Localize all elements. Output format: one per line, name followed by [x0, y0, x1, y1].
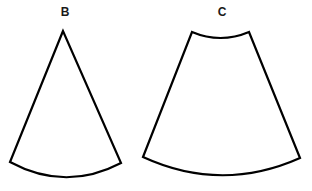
- shape-b-label: B: [58, 6, 72, 18]
- shape-c-label: C: [215, 6, 229, 18]
- geometry-figure-canvas: [0, 0, 312, 191]
